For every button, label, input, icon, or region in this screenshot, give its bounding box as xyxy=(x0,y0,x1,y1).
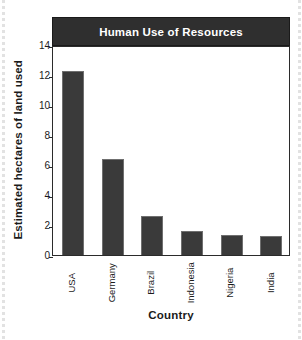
bar-chart-figure: Estimated hectares of land used 02468101… xyxy=(0,0,302,340)
x-tick-label: India xyxy=(246,258,294,306)
y-tick-label: 4 xyxy=(44,191,50,201)
y-tick-label: 10 xyxy=(39,101,50,111)
y-tick-label: 12 xyxy=(39,71,50,81)
y-tick-mark xyxy=(49,227,53,228)
y-axis-title: Estimated hectares of land used xyxy=(8,40,30,260)
bar-series xyxy=(53,47,289,255)
y-tick-mark xyxy=(49,107,53,108)
x-axis-tick-labels: USAGermanyBrazilIndonesiaNigeriaIndia xyxy=(52,258,290,306)
x-tick-label-text: Germany xyxy=(107,263,117,302)
y-tick-label: 8 xyxy=(44,131,50,141)
y-tick-mark xyxy=(49,47,53,48)
y-tick-mark xyxy=(49,137,53,138)
y-axis-tick-labels: 02468101214 xyxy=(30,46,50,256)
bar xyxy=(141,216,163,255)
y-tick-mark xyxy=(49,197,53,198)
chart-title-bar: Human Use of Resources xyxy=(52,17,290,46)
plot-area xyxy=(52,46,290,256)
bar xyxy=(62,71,84,256)
chart-title: Human Use of Resources xyxy=(99,26,243,38)
bar xyxy=(260,236,282,255)
y-tick-label: 6 xyxy=(44,161,50,171)
x-axis-title: Country xyxy=(52,309,290,321)
x-tick-label-text: Indonesia xyxy=(186,262,196,303)
x-tick-label-text: India xyxy=(265,272,275,293)
y-tick-label: 14 xyxy=(39,41,50,51)
bar xyxy=(102,159,124,255)
y-tick-mark xyxy=(49,167,53,168)
x-tick-label-text: Nigeria xyxy=(226,268,236,298)
bar xyxy=(181,231,203,255)
y-tick-label: 2 xyxy=(44,221,50,231)
x-tick-label-text: USA xyxy=(67,273,77,293)
y-axis-title-text: Estimated hectares of land used xyxy=(13,60,25,240)
x-tick-label-text: Brazil xyxy=(146,271,156,295)
y-tick-mark xyxy=(49,77,53,78)
plot-inner xyxy=(53,47,289,255)
bar xyxy=(221,235,243,255)
